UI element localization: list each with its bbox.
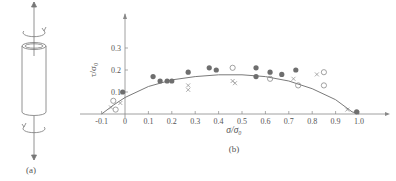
open-circle-marker bbox=[111, 98, 116, 103]
torque-arrowhead-bottom bbox=[22, 123, 26, 127]
filled-circle-marker bbox=[169, 78, 174, 83]
open-circle-marker bbox=[321, 83, 326, 88]
tube-diagram bbox=[22, 2, 46, 160]
filled-circle-marker bbox=[120, 89, 125, 94]
x-tick-label: 0.8 bbox=[307, 117, 317, 126]
x-axis-label: σ/σ₀ bbox=[226, 125, 241, 135]
x-ticks: -0.100.10.20.30.40.50.60.70.80.91.0 bbox=[95, 111, 364, 126]
filled-circle-marker bbox=[207, 65, 212, 70]
y-axis-arrow-icon bbox=[123, 13, 127, 19]
cross-marker bbox=[118, 101, 122, 105]
filled-circle-marker bbox=[158, 78, 163, 83]
arrow-down-icon bbox=[32, 155, 37, 160]
filled-circle-marker bbox=[253, 74, 258, 79]
filled-circle-marker bbox=[253, 65, 258, 70]
filled-circle-marker bbox=[214, 67, 219, 72]
x-tick-label: 0.1 bbox=[143, 117, 153, 126]
open-circle-marker bbox=[230, 65, 235, 70]
arrow-up-icon bbox=[32, 2, 37, 7]
tube-bottom-edge bbox=[22, 112, 46, 116]
y-tick-label: 0.3 bbox=[111, 44, 121, 53]
fit-curve bbox=[102, 75, 359, 114]
x-tick-label: 0.4 bbox=[214, 117, 224, 126]
y-tick-label: 0.1 bbox=[111, 88, 121, 97]
x-tick-label: 0.3 bbox=[190, 117, 200, 126]
filled-circle-marker bbox=[279, 72, 284, 77]
filled-circle-marker bbox=[186, 70, 191, 75]
x-tick-label: 0.2 bbox=[167, 117, 177, 126]
cross-marker bbox=[186, 83, 190, 87]
panel-a-label: (a) bbox=[26, 165, 36, 175]
x-tick-label: 0.9 bbox=[331, 117, 341, 126]
open-circle-marker bbox=[113, 107, 118, 112]
x-tick-label: 0.7 bbox=[284, 117, 294, 126]
y-tick-label: 0.2 bbox=[111, 66, 121, 75]
open-circle-marker bbox=[321, 70, 326, 75]
filled-circle-marker bbox=[354, 109, 359, 114]
x-axis-arrow-icon bbox=[385, 112, 390, 116]
panel-b-label: (b) bbox=[229, 144, 240, 154]
y-axis-label: τ/σ₀ bbox=[88, 63, 98, 77]
x-tick-label: -0.1 bbox=[95, 117, 108, 126]
chart: -0.100.10.20.30.40.50.60.70.80.91.0 0.10… bbox=[80, 13, 390, 154]
y-ticks: 0.10.20.3 bbox=[111, 44, 128, 97]
filled-circle-marker bbox=[165, 78, 170, 83]
data-markers bbox=[109, 65, 359, 114]
figure: (a) -0.100.10.20.30.40.50.60.70.80.91.0 … bbox=[0, 0, 396, 181]
torque-arrowhead-top bbox=[42, 27, 46, 31]
filled-circle-marker bbox=[267, 70, 272, 75]
x-tick-label: 0 bbox=[123, 117, 127, 126]
cross-marker bbox=[291, 77, 295, 81]
x-tick-label: 1.0 bbox=[354, 117, 364, 126]
cross-marker bbox=[186, 88, 190, 92]
filled-circle-marker bbox=[150, 74, 155, 79]
cross-marker bbox=[233, 81, 237, 85]
x-tick-label: 0.6 bbox=[260, 117, 270, 126]
filled-circle-marker bbox=[293, 67, 298, 72]
cross-marker bbox=[315, 72, 319, 76]
